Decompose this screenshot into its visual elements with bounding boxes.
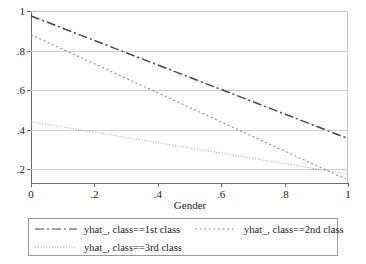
series-line (31, 35, 348, 180)
y-tick-label: 1 (20, 6, 26, 17)
legend-label-3rd-class: yhat_, class==3rd class (84, 242, 182, 253)
series-line (31, 16, 348, 139)
x-tick-mark (221, 183, 222, 187)
x-axis-title: Gender (31, 199, 349, 211)
y-tick-label: .2 (17, 164, 25, 175)
legend-item-2nd-class[interactable]: yhat_, class==2nd class (195, 220, 344, 238)
series-line (31, 122, 348, 174)
legend-label-2nd-class: yhat_, class==2nd class (244, 224, 344, 235)
legend-row: yhat_, class==3rd class (29, 238, 337, 256)
legend-key-dash-dot-icon (35, 224, 77, 234)
series-lines (31, 11, 348, 183)
x-tick-mark (94, 183, 95, 187)
legend-item-1st-class[interactable]: yhat_, class==1st class (35, 220, 180, 238)
legend-row: yhat_, class==1st class yhat_, class==2n… (29, 220, 337, 238)
legend-label-1st-class: yhat_, class==1st class (84, 224, 180, 235)
legend: yhat_, class==1st class yhat_, class==2n… (28, 218, 338, 256)
x-tick-mark (285, 183, 286, 187)
y-tick-label: .8 (17, 45, 25, 56)
y-tick-label: .4 (17, 124, 25, 135)
legend-key-fine-dotted-icon (35, 242, 77, 252)
chart-container: 1.8.6.4.2 0.2.4.6.81 Gender yhat_, class… (0, 0, 366, 264)
x-tick-mark (31, 183, 32, 187)
y-tick-label: .6 (17, 85, 25, 96)
legend-key-dotted-icon (195, 224, 237, 234)
x-tick-mark (348, 183, 349, 187)
x-tick-mark (158, 183, 159, 187)
x-axis-line (31, 183, 349, 184)
plot-area: 1.8.6.4.2 0.2.4.6.81 (31, 11, 348, 183)
legend-item-3rd-class[interactable]: yhat_, class==3rd class (35, 238, 182, 256)
